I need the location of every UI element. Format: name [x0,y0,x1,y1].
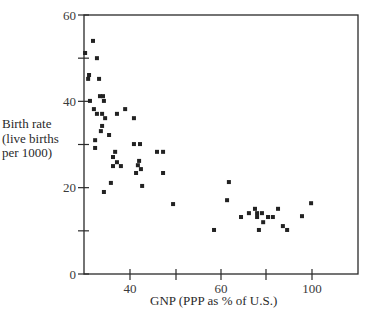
data-point [83,51,87,55]
data-point [86,77,90,81]
data-point [132,116,136,120]
data-point [101,94,105,98]
data-point [171,202,175,206]
y-tick-label: 20 [63,180,76,195]
y-axis-label-line: per 1000) [2,146,59,161]
plot-frame [84,15,358,274]
y-axis-label: Birth rate (live births per 1000) [2,117,59,161]
data-point [119,164,123,168]
data-point [107,133,111,137]
data-point [111,164,115,168]
data-point [161,150,165,154]
data-point [109,181,113,185]
data-point [281,224,285,228]
data-point [87,73,91,77]
data-point [266,215,270,219]
data-point [138,142,142,146]
data-point [300,214,304,218]
data-point [115,112,119,116]
data-point [261,220,265,224]
data-point [255,211,259,215]
data-point [100,124,104,128]
data-point [95,56,99,60]
data-points [83,39,313,232]
data-point [92,107,96,111]
data-point [225,198,229,202]
y-axis-label-line: Birth rate [2,117,59,132]
data-point [161,171,165,175]
data-point [102,99,106,103]
data-point [91,39,95,43]
data-point [93,146,97,150]
data-point [97,77,101,81]
data-point [257,228,261,232]
data-point [253,207,257,211]
y-tick-label: 60 [63,8,76,23]
data-point [136,163,140,167]
data-point [115,160,119,164]
y-axis: 0204060 [63,8,89,282]
data-point [271,215,275,219]
data-point [113,150,117,154]
data-point [123,107,127,111]
x-axis: 4060100 [124,269,322,296]
x-tick-label: 40 [124,281,137,296]
y-tick-label: 40 [63,94,76,109]
data-point [247,211,251,215]
x-axis-label: GNP (PPP as % of U.S.) [150,293,277,309]
y-tick-label: 0 [70,267,77,282]
data-point [93,138,97,142]
data-point [99,129,103,133]
data-point [140,184,144,188]
data-point [137,159,141,163]
data-point [239,215,243,219]
data-point [100,112,104,116]
data-point [95,112,99,116]
data-point [111,155,115,159]
data-point [134,171,138,175]
data-point [276,207,280,211]
data-point [255,215,259,219]
data-point [132,142,136,146]
data-point [103,116,107,120]
data-point [227,180,231,184]
data-point [102,190,106,194]
data-point [285,228,289,232]
data-point [212,228,216,232]
data-point [260,211,264,215]
data-point [155,150,159,154]
data-point [139,167,143,171]
y-axis-label-line: (live births [2,132,59,147]
x-tick-label: 100 [302,281,322,296]
data-point [309,201,313,205]
data-point [88,99,92,103]
